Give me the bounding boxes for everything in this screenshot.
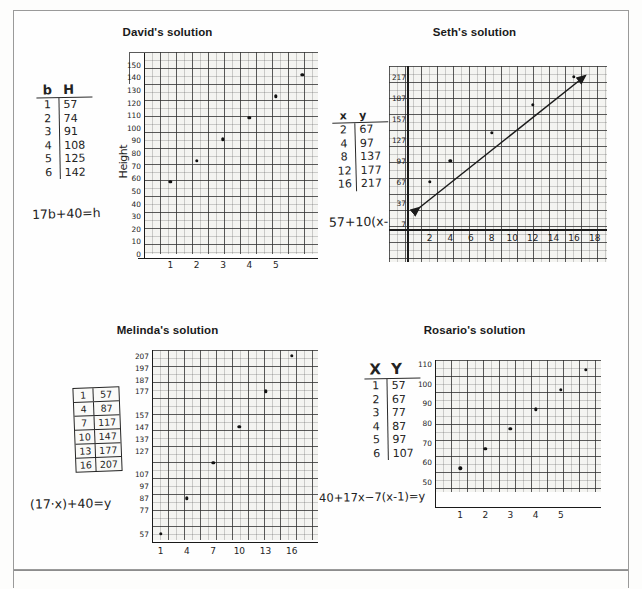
quadrant-melinda: Melinda's solution 1 57 4 87 7 117 10 14… bbox=[14, 300, 321, 570]
david-y-axis bbox=[144, 52, 145, 259]
y-tick-label: 87 bbox=[126, 494, 149, 503]
x-tick-label: 8 bbox=[489, 233, 495, 243]
cell-x: 4 bbox=[74, 402, 94, 416]
rosario-plot-area bbox=[435, 360, 601, 492]
cell-x: 10 bbox=[75, 430, 95, 444]
x-tick-label: 18 bbox=[589, 233, 600, 243]
table-row: 2 74 bbox=[37, 111, 94, 125]
x-tick-label: 16 bbox=[286, 546, 297, 556]
quadrant-seth: Seth's solution x y 2 67 4 97 8 137 bbox=[321, 14, 628, 294]
y-tick-label: 207 bbox=[126, 351, 149, 360]
cell-x: 6 bbox=[38, 166, 60, 180]
cell-x: 3 bbox=[37, 125, 59, 139]
cell-x: 12 bbox=[333, 164, 355, 178]
x-tick-label: 3 bbox=[508, 510, 514, 520]
table-row: 5 125 bbox=[37, 151, 94, 165]
y-tick-label: 110 bbox=[118, 111, 141, 120]
y-tick-label: 157 bbox=[126, 411, 149, 420]
david-table: b H 1 57 2 74 3 91 4 bbox=[36, 82, 95, 180]
cell-y: 108 bbox=[59, 138, 94, 152]
y-tick-label: 10 bbox=[118, 237, 141, 246]
cell-x: 4 bbox=[37, 139, 59, 153]
table-row: 6 142 bbox=[38, 165, 95, 179]
cell-x: 5 bbox=[37, 152, 59, 166]
y-tick-label: 140 bbox=[118, 73, 141, 82]
x-tick-label: 13 bbox=[260, 546, 271, 556]
david-graph-container: Height 150140130120110100908070605040302… bbox=[119, 49, 319, 279]
y-tick-label: 187 bbox=[126, 375, 149, 384]
y-tick-label: 97 bbox=[383, 156, 406, 165]
y-tick-label: 127 bbox=[383, 135, 406, 144]
cell-x: 1 bbox=[73, 388, 93, 402]
y-tick-label: 60 bbox=[409, 458, 432, 467]
worksheet-page: David's solution b H 1 57 2 74 3 bbox=[0, 0, 642, 589]
rosario-y-axis bbox=[435, 360, 436, 508]
x-tick-label: 3 bbox=[220, 260, 226, 270]
y-tick-label: 37 bbox=[383, 199, 406, 208]
y-tick-label: 80 bbox=[409, 419, 432, 428]
cell-x: 5 bbox=[365, 433, 387, 447]
david-x-axis bbox=[138, 258, 318, 259]
rosario-equation: 40+17x−7(x-1)=y bbox=[319, 489, 426, 505]
y-tick-label: 60 bbox=[118, 174, 141, 183]
y-tick-label: 30 bbox=[118, 212, 141, 221]
seth-title: Seth's solution bbox=[321, 26, 628, 38]
david-title: David's solution bbox=[14, 26, 321, 38]
seth-graph-container: 2171871571279767377 24681012141618 bbox=[389, 66, 624, 281]
david-col-b: b bbox=[36, 82, 58, 97]
x-tick-label: 16 bbox=[568, 233, 579, 243]
cell-x: 1 bbox=[364, 379, 386, 393]
y-tick-label: 67 bbox=[383, 177, 406, 186]
y-tick-label: 177 bbox=[126, 387, 149, 396]
x-tick-label: 6 bbox=[468, 233, 474, 243]
x-tick-label: 1 bbox=[167, 260, 173, 270]
rosario-x-axis bbox=[435, 507, 601, 508]
melinda-equation: (17·x)+40=y bbox=[30, 495, 112, 511]
rosario-graph-container: 1101009080706050 12345 bbox=[413, 360, 618, 550]
x-tick-label: 1 bbox=[457, 510, 463, 520]
cell-x: 3 bbox=[365, 406, 387, 420]
melinda-graph-container: 20719718717715714713712710797877757 1471… bbox=[124, 350, 319, 565]
melinda-table: 1 57 4 87 7 117 10 147 13 177 16 207 bbox=[72, 386, 122, 473]
cell-y: 74 bbox=[59, 111, 94, 125]
table-row: 16 207 bbox=[76, 457, 121, 472]
x-tick-label: 12 bbox=[527, 233, 538, 243]
cell-y: 91 bbox=[59, 125, 94, 139]
x-tick-label: 4 bbox=[184, 546, 190, 556]
y-tick-label: 20 bbox=[118, 224, 141, 233]
cell-y: 147 bbox=[95, 429, 120, 443]
cell-y: 87 bbox=[94, 401, 119, 415]
x-tick-label: 10 bbox=[506, 233, 517, 243]
seth-col-x: x bbox=[332, 109, 354, 123]
david-table-body: 1 57 2 74 3 91 4 108 5 125 bbox=[36, 98, 94, 180]
cell-x: 1 bbox=[36, 98, 58, 112]
seth-table-header: x y bbox=[332, 108, 389, 122]
x-tick-label: 1 bbox=[158, 546, 164, 556]
x-tick-label: 14 bbox=[548, 233, 559, 243]
x-tick-label: 2 bbox=[427, 233, 433, 243]
cell-x: 16 bbox=[334, 177, 356, 191]
y-tick-label: 0 bbox=[118, 250, 141, 259]
x-tick-label: 10 bbox=[234, 546, 245, 556]
david-table-header: b H bbox=[36, 82, 93, 98]
cell-y: 57 bbox=[93, 387, 118, 401]
y-tick-label: 97 bbox=[126, 482, 149, 491]
page-footer-area bbox=[13, 570, 629, 588]
y-tick-label: 137 bbox=[126, 434, 149, 443]
x-tick-label: 4 bbox=[447, 233, 453, 243]
quadrant-rosario: Rosario's solution X Y 1 57 2 67 3 7 bbox=[321, 300, 628, 570]
melinda-x-axis bbox=[152, 542, 318, 543]
cell-y: 177 bbox=[96, 443, 121, 457]
y-tick-label: 90 bbox=[118, 136, 141, 145]
y-tick-label: 197 bbox=[126, 363, 149, 372]
y-tick-label: 70 bbox=[118, 161, 141, 170]
cell-y: 57 bbox=[58, 98, 93, 112]
cell-x: 2 bbox=[332, 123, 354, 137]
y-tick-label: 77 bbox=[126, 506, 149, 515]
cell-y: 142 bbox=[60, 165, 95, 179]
david-plot-area bbox=[144, 52, 318, 254]
cell-x: 16 bbox=[76, 458, 96, 472]
x-tick-label: 4 bbox=[247, 260, 253, 270]
melinda-title: Melinda's solution bbox=[14, 324, 321, 336]
y-tick-label: 50 bbox=[409, 478, 432, 487]
